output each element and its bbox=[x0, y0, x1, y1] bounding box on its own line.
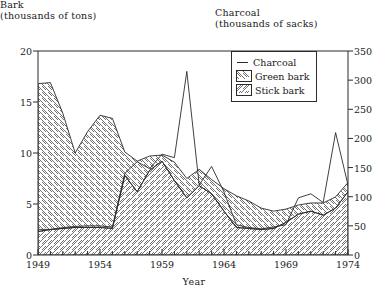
right-axis-tick-350: 350 bbox=[354, 46, 384, 57]
legend-item-green-bark: Green bark bbox=[236, 69, 310, 83]
legend-item-stick-bark: Stick bark bbox=[236, 83, 310, 97]
chart-legend: Charcoal Green bark Stick bark bbox=[231, 51, 317, 102]
legend-swatch-hatch-backslash-icon bbox=[236, 70, 252, 82]
x-axis-title: Year bbox=[0, 277, 388, 288]
plot-area bbox=[0, 0, 388, 298]
left-axis-tick-15: 15 bbox=[8, 97, 32, 108]
x-axis-tick-1964: 1964 bbox=[212, 259, 236, 270]
chart-figure: Bark (thousands of tons) Charcoal (thous… bbox=[0, 0, 388, 298]
left-axis-tick-5: 5 bbox=[8, 199, 32, 210]
legend-label-green-bark: Green bark bbox=[255, 71, 310, 82]
right-axis-tick-200: 200 bbox=[354, 133, 384, 144]
left-axis-ticklabels: 05101520 bbox=[4, 0, 32, 298]
legend-swatch-line-icon bbox=[236, 57, 250, 67]
x-axis-tick-1974: 1974 bbox=[336, 259, 360, 270]
right-axis-ticklabels: 050100150200250300350 bbox=[354, 0, 388, 298]
legend-label-stick-bark: Stick bark bbox=[255, 85, 305, 96]
x-axis-tick-1959: 1959 bbox=[150, 259, 174, 270]
legend-swatch-hatch-slash-icon bbox=[236, 84, 252, 96]
left-axis-tick-20: 20 bbox=[8, 46, 32, 57]
right-axis-tick-50: 50 bbox=[354, 220, 384, 231]
legend-label-charcoal: Charcoal bbox=[253, 57, 296, 68]
right-axis-tick-100: 100 bbox=[354, 191, 384, 202]
left-axis-tick-10: 10 bbox=[8, 148, 32, 159]
right-axis-tick-300: 300 bbox=[354, 75, 384, 86]
x-axis-tick-1969: 1969 bbox=[274, 259, 298, 270]
legend-item-charcoal: Charcoal bbox=[236, 55, 310, 69]
x-axis-tick-1954: 1954 bbox=[88, 259, 112, 270]
x-axis-tick-1949: 1949 bbox=[26, 259, 50, 270]
right-axis-tick-250: 250 bbox=[354, 104, 384, 115]
right-axis-tick-150: 150 bbox=[354, 162, 384, 173]
